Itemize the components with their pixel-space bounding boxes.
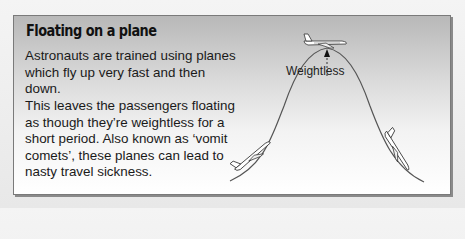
plane-top-icon	[304, 34, 347, 48]
weightless-label: Weightless	[286, 64, 344, 78]
parabolic-flight-diagram	[14, 16, 452, 196]
plane-descending-icon	[381, 127, 416, 172]
info-panel: Floating on a plane Astronauts are train…	[13, 15, 451, 195]
plane-climbing-icon	[230, 135, 273, 174]
